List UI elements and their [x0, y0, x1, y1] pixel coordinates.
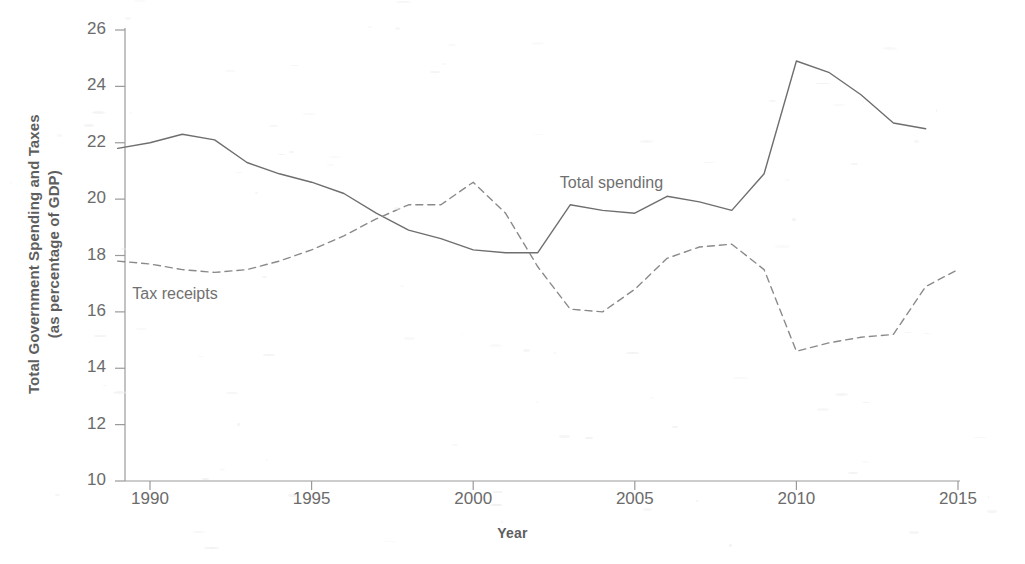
series-label-total-spending: Total spending — [560, 174, 663, 192]
noise-speck — [987, 510, 997, 513]
noise-speck — [785, 179, 790, 181]
noise-speck — [936, 109, 937, 112]
noise-speck — [130, 112, 132, 114]
noise-speck — [501, 521, 503, 523]
noise-speck — [394, 207, 400, 210]
noise-speck — [490, 344, 502, 347]
noise-speck — [404, 337, 415, 340]
y-axis-ticks — [115, 30, 125, 481]
noise-speck — [193, 531, 205, 533]
noise-speck — [269, 125, 278, 127]
noise-speck — [263, 354, 275, 356]
noise-speck — [851, 163, 858, 165]
noise-speck — [57, 134, 62, 137]
noise-speck — [204, 547, 219, 549]
series-line-total-spending — [118, 61, 926, 253]
noise-speck — [452, 444, 458, 446]
noise-speck — [531, 42, 545, 45]
axes — [125, 28, 960, 481]
noise-speck — [835, 393, 848, 396]
series-line-tax-receipts — [118, 182, 958, 351]
series-label-tax-receipts: Tax receipts — [132, 285, 217, 303]
noise-speck — [817, 408, 829, 411]
noise-speck — [266, 459, 268, 461]
noise-speck — [237, 423, 240, 426]
noise-speck — [523, 349, 530, 352]
noise-speck — [626, 352, 639, 354]
noise-speck — [198, 356, 204, 357]
noise-speck — [448, 44, 456, 46]
noise-speck — [909, 531, 919, 534]
noise-speck — [262, 276, 267, 278]
noise-speck — [255, 192, 258, 194]
chart-container: Total Government Spending and Taxes (as … — [0, 0, 1025, 564]
noise-speck — [643, 508, 652, 511]
noise-speck — [848, 472, 858, 474]
noise-speck — [289, 151, 294, 153]
noise-speck — [226, 392, 238, 394]
noise-speck — [113, 391, 127, 394]
noise-speck — [792, 218, 796, 221]
noise-speck — [395, 27, 400, 30]
noise-speck — [988, 496, 989, 499]
x-axis-ticks — [150, 481, 958, 490]
plot-area — [0, 0, 1025, 564]
noise-speck — [559, 435, 570, 438]
noise-speck — [220, 468, 225, 471]
noise-speck — [430, 71, 440, 73]
noise-speck — [55, 494, 60, 496]
noise-speck — [121, 248, 126, 250]
noise-speck — [92, 111, 105, 114]
noise-speck — [914, 140, 919, 143]
noise-speck — [833, 104, 845, 106]
noise-speck — [553, 352, 557, 354]
noise-speck — [883, 47, 897, 50]
noise-speck — [492, 491, 503, 493]
noise-speck — [125, 17, 131, 20]
noise-speck — [288, 494, 297, 497]
noise-speck — [10, 181, 12, 184]
noise-speck — [696, 500, 698, 502]
noise-speck — [729, 544, 732, 547]
noise-speck — [536, 401, 538, 403]
noise-speck — [84, 124, 94, 127]
noise-speck — [672, 426, 678, 428]
noise-speck — [775, 245, 790, 248]
noise-speck — [640, 140, 653, 143]
